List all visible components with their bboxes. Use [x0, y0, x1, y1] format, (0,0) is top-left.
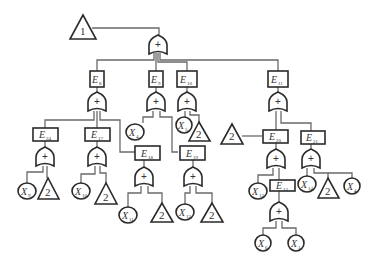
basic-x13: X13	[249, 183, 267, 199]
or-gate-e21: +	[302, 149, 320, 168]
svg-text:20: 20	[276, 138, 282, 143]
or-gate-e19: +	[184, 167, 202, 186]
or-gate-e18: +	[135, 167, 153, 186]
svg-text:1: 1	[80, 25, 86, 37]
svg-text:+: +	[141, 171, 147, 182]
svg-text:21: 21	[313, 139, 319, 144]
svg-text:X: X	[178, 207, 186, 218]
svg-text:+: +	[276, 206, 282, 217]
basic-x5: X5	[176, 117, 192, 133]
event-e17: E17	[85, 128, 110, 141]
svg-text:X: X	[257, 238, 265, 249]
svg-text:2: 2	[103, 191, 109, 203]
event-e20: E20	[263, 130, 288, 143]
svg-text:+: +	[273, 153, 279, 164]
fault-tree-diagram: 1 + + + + + + + + + + + + E8 E9 E10 E11 …	[0, 0, 373, 263]
svg-text:X: X	[290, 238, 298, 249]
svg-text:E: E	[150, 74, 157, 85]
svg-text:X: X	[74, 186, 82, 197]
top-transfer-triangle: 1	[70, 15, 96, 39]
svg-text:18: 18	[148, 155, 154, 160]
basic-x1: X1	[288, 235, 304, 251]
or-gate-e17: +	[88, 147, 106, 166]
svg-text:10: 10	[82, 193, 88, 198]
svg-text:X: X	[128, 127, 136, 138]
svg-text:E: E	[91, 74, 98, 85]
or-gate-e11: +	[269, 92, 287, 111]
svg-text:E: E	[90, 129, 97, 140]
svg-text:11: 11	[129, 217, 134, 222]
svg-text:X: X	[251, 186, 259, 197]
basic-x6: X6	[255, 235, 271, 251]
svg-text:+: +	[155, 39, 161, 50]
svg-text:13: 13	[259, 193, 265, 198]
svg-text:+: +	[184, 96, 190, 107]
event-e8: E8	[90, 71, 104, 87]
svg-text:X: X	[20, 186, 28, 197]
svg-text:X: X	[121, 210, 129, 221]
basic-x14: X14	[298, 176, 316, 192]
or-gate-e12: +	[270, 202, 288, 221]
svg-text:14: 14	[308, 186, 314, 191]
svg-text:E: E	[305, 132, 312, 143]
event-e9: E9	[149, 71, 163, 87]
svg-text:2: 2	[196, 128, 202, 140]
svg-text:12: 12	[186, 214, 192, 219]
or-gate-e9: +	[147, 92, 165, 111]
svg-text:X: X	[177, 120, 185, 131]
svg-text:X: X	[300, 179, 308, 190]
svg-text:17: 17	[98, 136, 104, 141]
transfer-2-e19: 2	[201, 203, 223, 222]
svg-text:E: E	[185, 148, 192, 159]
or-gate-e8: +	[88, 92, 106, 111]
svg-text:E: E	[38, 129, 45, 140]
event-e18: E18	[135, 146, 160, 160]
basic-x12: X12	[176, 204, 194, 220]
svg-text:E: E	[268, 131, 275, 142]
or-gate-e10: +	[178, 92, 196, 111]
svg-text:E: E	[140, 148, 147, 159]
transfer-2-e17: 2	[95, 183, 117, 204]
svg-text:+: +	[275, 96, 281, 107]
basic-x4-e21: X4	[344, 178, 360, 194]
svg-text:+: +	[94, 151, 100, 162]
event-e10: E10	[177, 71, 197, 87]
svg-text:12: 12	[283, 187, 289, 192]
event-e12: E12	[270, 180, 295, 192]
svg-text:10: 10	[187, 81, 193, 86]
svg-text:E: E	[275, 180, 282, 191]
svg-text:+: +	[308, 153, 314, 164]
svg-text:2: 2	[45, 186, 51, 198]
svg-text:2: 2	[229, 130, 235, 142]
svg-text:X: X	[346, 181, 354, 192]
event-e21: E21	[301, 131, 325, 144]
basic-x10: X10	[72, 183, 90, 199]
svg-text:19: 19	[193, 155, 199, 160]
basic-x9: X9	[18, 183, 36, 199]
svg-text:2: 2	[159, 209, 165, 221]
svg-text:24: 24	[46, 136, 52, 141]
svg-text:11: 11	[278, 81, 283, 86]
svg-text:+: +	[190, 171, 196, 182]
or-gate-top: +	[149, 35, 167, 54]
transfer-2-e21: 2	[318, 178, 339, 198]
event-e11: E11	[268, 71, 288, 87]
svg-text:2: 2	[325, 185, 331, 197]
event-e24: E24	[33, 128, 58, 141]
basic-x11: X11	[119, 207, 137, 223]
or-gate-e24: +	[36, 147, 54, 166]
svg-text:2: 2	[209, 209, 215, 221]
transfer-2-e18: 2	[151, 203, 173, 222]
transfer-2-e24: 2	[38, 178, 59, 199]
transfer-2-standalone: 2	[221, 124, 243, 144]
svg-text:+: +	[42, 151, 48, 162]
or-gate-e20: +	[267, 149, 285, 168]
svg-text:E: E	[179, 74, 186, 85]
basic-x4-e9: X4	[126, 124, 144, 140]
svg-text:+: +	[153, 96, 159, 107]
svg-text:E: E	[270, 74, 277, 85]
event-e19: E19	[180, 146, 205, 160]
svg-text:+: +	[94, 96, 100, 107]
